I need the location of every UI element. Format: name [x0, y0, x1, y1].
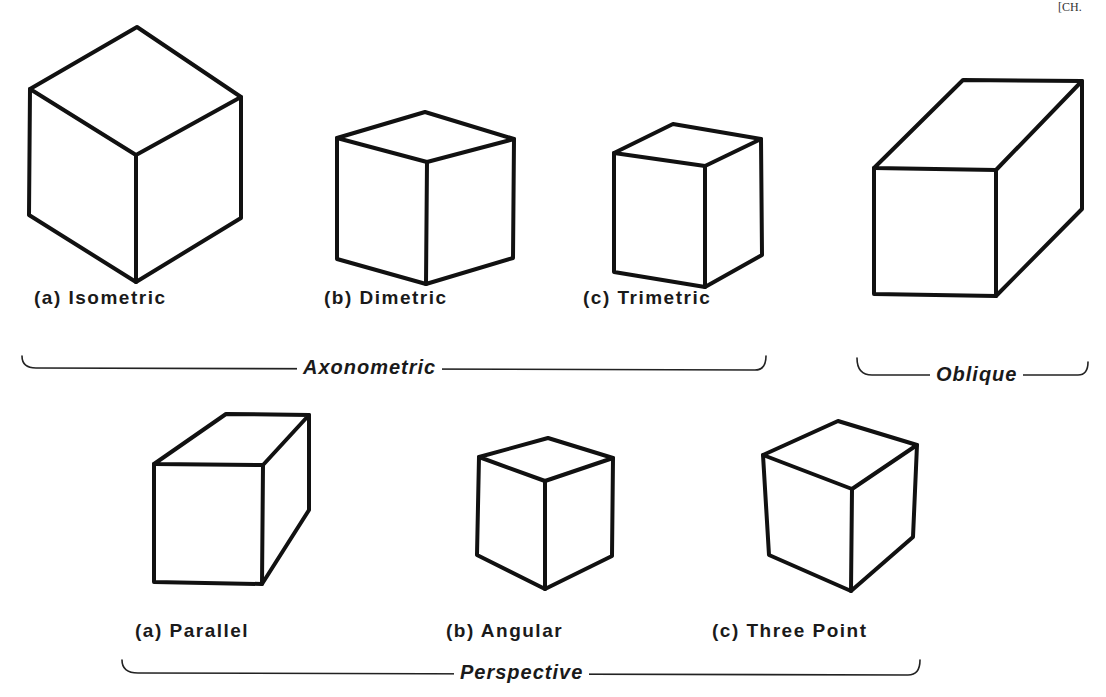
- label-parallel: (a) Parallel: [135, 620, 249, 642]
- projection-diagram: [0, 0, 1106, 697]
- label-trimetric: (c) Trimetric: [583, 287, 711, 309]
- label-dimetric: (b) Dimetric: [324, 287, 448, 309]
- label-isometric: (a) Isometric: [34, 287, 166, 309]
- label-three-point: (c) Three Point: [712, 620, 868, 642]
- label-angular: (b) Angular: [446, 620, 563, 642]
- group-label-axonometric: Axonometric: [297, 356, 442, 379]
- angular-perspective-cube: [477, 438, 613, 589]
- isometric-cube: [29, 27, 241, 282]
- group-label-oblique: Oblique: [930, 363, 1023, 386]
- group-label-perspective: Perspective: [454, 661, 589, 684]
- dimetric-cube: [337, 112, 514, 284]
- oblique-box: [874, 80, 1082, 296]
- parallel-perspective-box: [154, 414, 309, 584]
- three-point-perspective-cube: [763, 421, 917, 591]
- trimetric-cube: [614, 124, 762, 287]
